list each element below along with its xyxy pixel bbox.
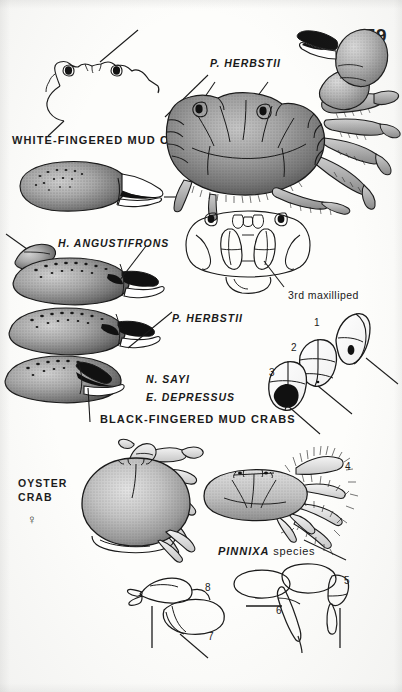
oyster-crab-label-line2: CRAB: [18, 492, 53, 503]
third-maxilliped-label: 3rd maxilliped: [288, 290, 359, 301]
pinnixa-species-label: PINNIXA species: [218, 546, 315, 557]
dactyl-series-figure: [262, 312, 402, 440]
dactyl-callout-3: 3: [269, 368, 275, 378]
dactyl-callout-2: 2: [291, 343, 297, 353]
pinnixa-species-word: species: [273, 545, 315, 557]
oyster-crab-figure: [66, 440, 206, 565]
leg-callout-6: 6: [276, 606, 282, 616]
leg-detail-left-figure: [130, 570, 240, 655]
e-depressus-label: E. DEPRESSUS: [146, 392, 235, 403]
leg-detail-right-figure: [232, 566, 352, 656]
leg-callout-8: 8: [205, 583, 211, 593]
pinnixa-callout-4: 4: [345, 462, 351, 472]
pinnixa-genus: PINNIXA: [218, 545, 270, 557]
field-guide-plate: 59 WHITE-FINGERED MUD CRAB: [0, 0, 402, 692]
female-symbol: ♀: [27, 513, 38, 526]
black-fingered-leader-lines: [100, 240, 210, 390]
oyster-crab-label-line1: OYSTER: [18, 478, 67, 489]
dactyl-callout-1: 1: [314, 318, 320, 328]
p-herbstii-habitus-figure: [150, 20, 402, 225]
leg-callout-7: 7: [208, 632, 214, 642]
